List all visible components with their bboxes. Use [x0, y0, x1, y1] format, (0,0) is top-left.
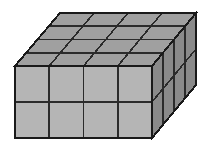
prism-figure — [0, 0, 210, 143]
front-face — [15, 66, 152, 138]
prism-svg — [0, 0, 210, 143]
